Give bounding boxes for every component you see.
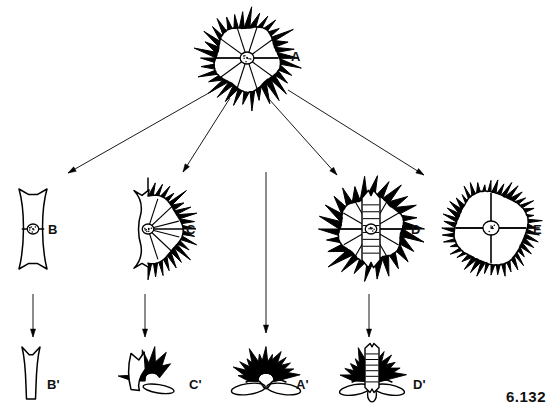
specimen-label-a-prime: A': [296, 378, 309, 391]
arrow-A-to-C: [183, 98, 230, 172]
specimen-b: [19, 189, 47, 269]
specimen-label-a: A: [291, 50, 301, 63]
specimen-label-e: E: [533, 223, 542, 236]
arrow-A-to-E: [288, 90, 424, 175]
specimen-a: [194, 7, 301, 111]
plate-number: 6.132: [506, 388, 546, 405]
specimen-layer: [19, 7, 542, 402]
specimen-label-d-prime: D': [413, 378, 426, 391]
arrow-C-to-C-prime: [142, 294, 147, 337]
arrow-B-to-B-prime: [30, 294, 35, 337]
specimen-e: [442, 180, 543, 276]
specimen-label-c-prime: C': [189, 378, 202, 391]
arrow-D-to-D-prime: [366, 294, 371, 337]
specimen-label-b-prime: B': [47, 378, 60, 391]
specimen-a-prime: [231, 347, 302, 397]
specimen-b-prime: [22, 347, 40, 399]
specimen-label-d: D: [411, 223, 421, 236]
specimen-label-c: C: [186, 223, 196, 236]
specimen-d: [318, 176, 424, 282]
arrow-A-to-B: [68, 90, 214, 173]
figure-panel: ABCDEB'C'A'D' 6.132: [0, 0, 560, 418]
specimen-label-b: B: [48, 223, 58, 236]
specimen-c-prime: [118, 347, 175, 396]
specimen-d-prime: [339, 343, 407, 401]
arrow-A-to-D: [268, 98, 337, 175]
diagram-canvas: [0, 0, 560, 418]
arrow-A-to-A-prime: [263, 172, 268, 333]
